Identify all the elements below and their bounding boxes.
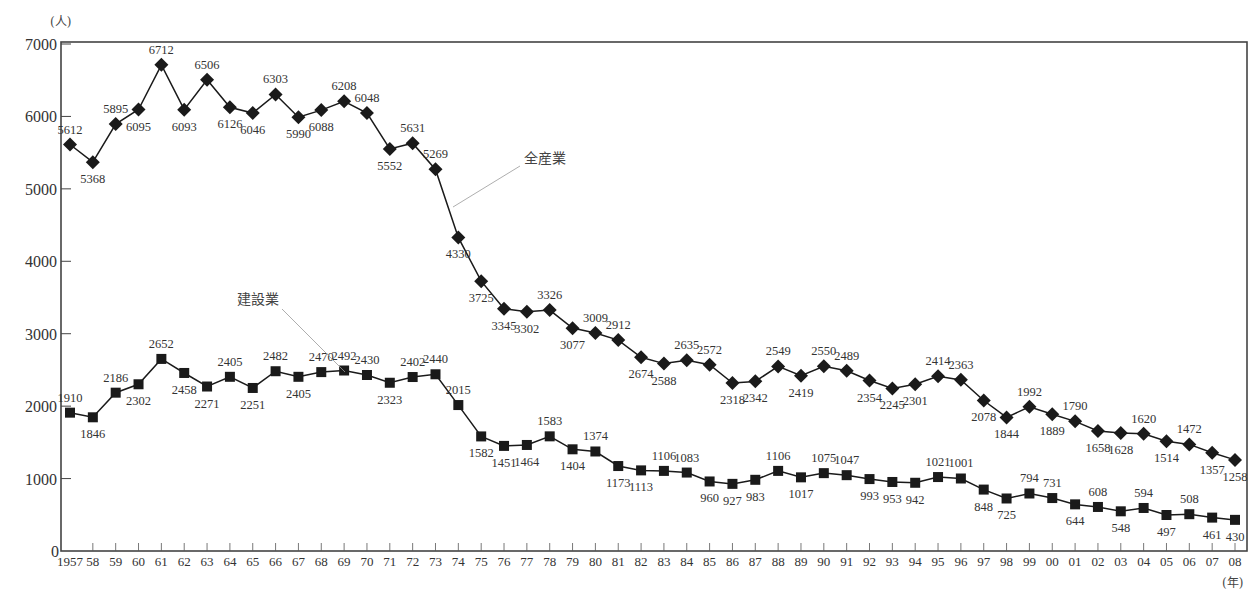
square-marker-icon [1116, 506, 1126, 516]
diamond-marker-icon [1205, 446, 1219, 460]
data-label: 3725 [469, 291, 494, 305]
square-marker-icon [796, 472, 806, 482]
square-marker-icon [545, 431, 555, 441]
data-label: 794 [1020, 471, 1040, 485]
x-tick-label: 00 [1046, 554, 1059, 569]
data-label: 5895 [103, 102, 128, 116]
data-label: 1075 [811, 451, 836, 465]
x-tick-label: 75 [475, 554, 488, 569]
x-tick-label: 72 [406, 554, 419, 569]
data-label: 1844 [994, 427, 1020, 441]
data-label: 1017 [788, 487, 813, 501]
x-tick-label: 85 [703, 554, 716, 569]
square-marker-icon [499, 441, 509, 451]
x-tick-label: 02 [1091, 554, 1104, 569]
square-marker-icon [385, 378, 395, 388]
x-tick-label: 74 [452, 554, 466, 569]
x-tick-label: 87 [749, 554, 763, 569]
data-label: 848 [974, 500, 993, 514]
square-marker-icon [1093, 502, 1103, 512]
square-marker-icon [956, 473, 966, 483]
data-label: 2323 [377, 393, 402, 407]
data-label: 5612 [58, 123, 83, 137]
square-marker-icon [568, 444, 578, 454]
x-tick-label: 64 [223, 554, 237, 569]
data-label: 2652 [149, 337, 174, 351]
diamond-marker-icon [63, 138, 77, 152]
data-label: 2402 [400, 355, 425, 369]
square-marker-icon [819, 468, 829, 478]
square-marker-icon [248, 383, 258, 393]
x-tick-label: 61 [155, 554, 168, 569]
square-marker-icon [865, 474, 875, 484]
data-label: 983 [746, 490, 765, 504]
square-marker-icon [773, 466, 783, 476]
data-label: 1173 [606, 476, 631, 490]
data-label: 2489 [834, 349, 859, 363]
diamond-marker-icon [1068, 414, 1082, 428]
y-tick-label: 3000 [25, 326, 57, 343]
x-tick-label: 77 [520, 554, 534, 569]
diamond-marker-icon [1022, 400, 1036, 414]
data-label: 1047 [834, 453, 859, 467]
y-axis-unit-label: (人) [50, 15, 71, 29]
diamond-marker-icon [383, 142, 397, 156]
square-marker-icon [430, 369, 440, 379]
square-marker-icon [910, 478, 920, 488]
x-tick-label: 86 [726, 554, 740, 569]
data-label: 2342 [743, 391, 768, 405]
square-marker-icon [453, 400, 463, 410]
data-label: 2550 [811, 344, 836, 358]
data-label: 6095 [126, 120, 151, 134]
data-label: 1790 [1063, 399, 1088, 413]
square-marker-icon [316, 367, 326, 377]
diamond-marker-icon [1137, 427, 1151, 441]
data-label: 6088 [309, 120, 334, 134]
line-chart: (人) (年) 01000200030004000500060007000195… [0, 0, 1260, 597]
data-label: 2301 [903, 394, 928, 408]
data-label: 3345 [492, 319, 517, 333]
x-tick-label: 70 [360, 554, 373, 569]
data-label: 3326 [537, 288, 562, 302]
data-label: 2015 [446, 383, 471, 397]
data-label: 2419 [788, 386, 813, 400]
data-label: 1113 [629, 480, 653, 494]
x-tick-label: 83 [657, 554, 670, 569]
data-label: 1464 [514, 455, 540, 469]
data-label: 2549 [766, 344, 791, 358]
data-label: 6303 [263, 72, 288, 86]
diamond-marker-icon [885, 381, 899, 395]
data-label: 644 [1066, 514, 1086, 528]
data-label: 1628 [1108, 443, 1133, 457]
square-marker-icon [134, 379, 144, 389]
series-lines: 5612536858956095671260936506612660466303… [58, 43, 1248, 544]
data-label: 2635 [674, 338, 699, 352]
diamond-marker-icon [314, 103, 328, 117]
total-industry-series-label: 全産業 [524, 150, 566, 166]
data-label: 2588 [651, 374, 676, 388]
square-marker-icon [842, 470, 852, 480]
data-label: 1620 [1131, 412, 1156, 426]
diamond-marker-icon [451, 230, 465, 244]
diamond-marker-icon [566, 321, 580, 335]
data-label: 6046 [240, 123, 265, 137]
diamond-marker-icon [611, 333, 625, 347]
y-tick-label: 2000 [25, 398, 57, 415]
data-label: 6093 [172, 120, 197, 134]
diamond-marker-icon [1114, 426, 1128, 440]
data-label: 1001 [948, 456, 973, 470]
x-tick-label: 05 [1160, 554, 1173, 569]
data-label: 993 [860, 489, 879, 503]
diamond-marker-icon [863, 374, 877, 388]
data-label: 2251 [240, 398, 265, 412]
data-label: 1658 [1085, 441, 1110, 455]
data-label: 2482 [263, 349, 288, 363]
x-tick-label: 89 [794, 554, 807, 569]
y-tick-label: 6000 [25, 108, 57, 125]
square-marker-icon [1161, 510, 1171, 520]
y-tick-label: 7000 [25, 36, 57, 53]
diamond-marker-icon [86, 155, 100, 169]
data-label: 1451 [492, 456, 517, 470]
data-label: 1583 [537, 414, 562, 428]
data-label: 1021 [926, 455, 951, 469]
